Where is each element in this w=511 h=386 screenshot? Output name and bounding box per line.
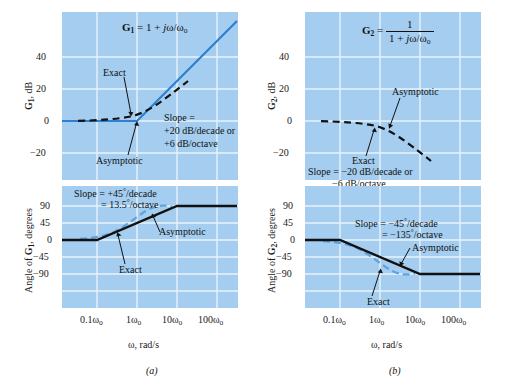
panel-b-phase-label-asymptotic: Asymptotic [412, 243, 459, 253]
panel-b-xlabel: ω, rad/s [371, 340, 402, 350]
bode-plot-figure: G1 = 1 + jω/ωo 40 20 0 −20 G1, dB Exact … [0, 0, 511, 386]
panel-b-phase-label-exact: Exact [367, 297, 390, 307]
panel-b-phase-ytick-45: 45 [283, 218, 293, 228]
panel-b-xtick-1: 1ωo [369, 315, 384, 327]
panel-b-phase-slope-note-1: Slope = −45°/decade [355, 218, 438, 229]
panel-b-phase-ylabel: Angle of G2, degrees [267, 208, 279, 293]
leader-b-phase-asymptotic [401, 248, 410, 264]
panel-b-xtick-3: 100ωo [441, 315, 466, 327]
curve-b-phase-exact [323, 241, 415, 274]
leader-b-phase-exact [372, 271, 380, 296]
panel-b-phase-slope-note-2: = −135°/octave [382, 229, 443, 240]
panel-b: G2 = 1 1 + jω/ωo 40 20 0 −20 G2, dB Asym… [0, 0, 511, 386]
panel-b-phase-ytick-90: 90 [283, 201, 293, 211]
panel-b-phase-graphics [0, 0, 511, 386]
panel-b-xtick-2: 10ωo [405, 315, 425, 327]
panel-b-xtick-0: 0.1ωo [323, 315, 346, 327]
panel-b-caption: (b) [389, 366, 401, 376]
panel-b-phase-ytick-0: 0 [290, 235, 295, 245]
